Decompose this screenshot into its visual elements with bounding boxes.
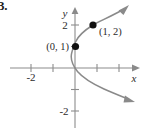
lower-branch-arrow-icon: [124, 96, 136, 103]
parabola-path: [71, 10, 128, 99]
upper-branch-arrow-icon: [119, 5, 130, 15]
point-1-2[interactable]: [89, 21, 96, 28]
x-axis-label: x: [131, 72, 137, 84]
figure-container: 3.: [0, 0, 144, 131]
y-axis-arrow-icon: [72, 7, 79, 14]
point-0-1[interactable]: [72, 43, 79, 50]
y-tick-label-neg2: -2: [59, 105, 68, 117]
parabola-curve-group: [71, 5, 135, 103]
graph-plot: y x -2 2 -2 (0, 1) (1, 2): [0, 0, 144, 131]
x-tick-label-neg2: -2: [26, 71, 35, 83]
point-label-0-1: (0, 1): [46, 41, 69, 53]
y-tick-label-pos2: 2: [62, 19, 68, 31]
point-label-1-2: (1, 2): [99, 26, 122, 38]
x-axis-arrow-icon: [132, 65, 140, 72]
y-axis-label: y: [62, 7, 68, 19]
plotted-points-group: [72, 21, 97, 50]
